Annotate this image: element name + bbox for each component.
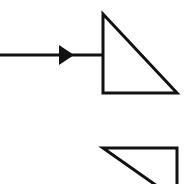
diagram-canvas bbox=[0, 0, 186, 184]
right-triangle-upper bbox=[103, 14, 177, 93]
right-triangle-lower-clipped bbox=[103, 148, 177, 184]
diagram-svg bbox=[0, 0, 186, 184]
arrow-head-icon bbox=[59, 45, 74, 65]
